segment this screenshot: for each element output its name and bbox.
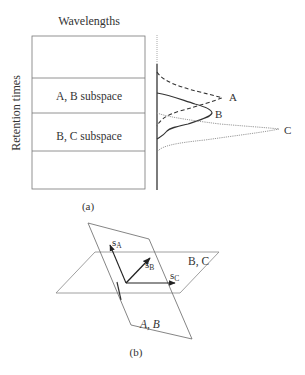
- vector-sb-label: sB: [145, 258, 154, 272]
- caption-b: (b): [130, 346, 143, 359]
- peak-c-label: C: [284, 124, 291, 136]
- caption-a: (a): [82, 200, 95, 213]
- peak-a-curve: [157, 72, 222, 126]
- peak-b-label: B: [215, 108, 222, 120]
- panel-b: sA sB sC B, C A, B (b): [56, 223, 219, 359]
- ab-plane-label: A, B: [139, 318, 160, 331]
- peak-b-curve: [157, 93, 212, 139]
- retention-times-label: Retention times: [9, 75, 23, 151]
- wavelengths-title: Wavelengths: [58, 14, 120, 28]
- bc-plane-label: B, C: [188, 255, 209, 268]
- vector-sc-label: sC: [170, 269, 179, 283]
- ab-subspace-label: A, B subspace: [56, 90, 122, 103]
- vector-sa-label: sA: [112, 236, 122, 250]
- figure: Wavelengths Retention times A, B subspac…: [0, 0, 305, 375]
- panel-a: Wavelengths Retention times A, B subspac…: [9, 14, 291, 213]
- vector-sa-arrow: [110, 245, 126, 283]
- data-matrix-box: [32, 36, 145, 189]
- bc-subspace-label: B, C subspace: [56, 130, 121, 143]
- peak-a-label: A: [229, 91, 237, 103]
